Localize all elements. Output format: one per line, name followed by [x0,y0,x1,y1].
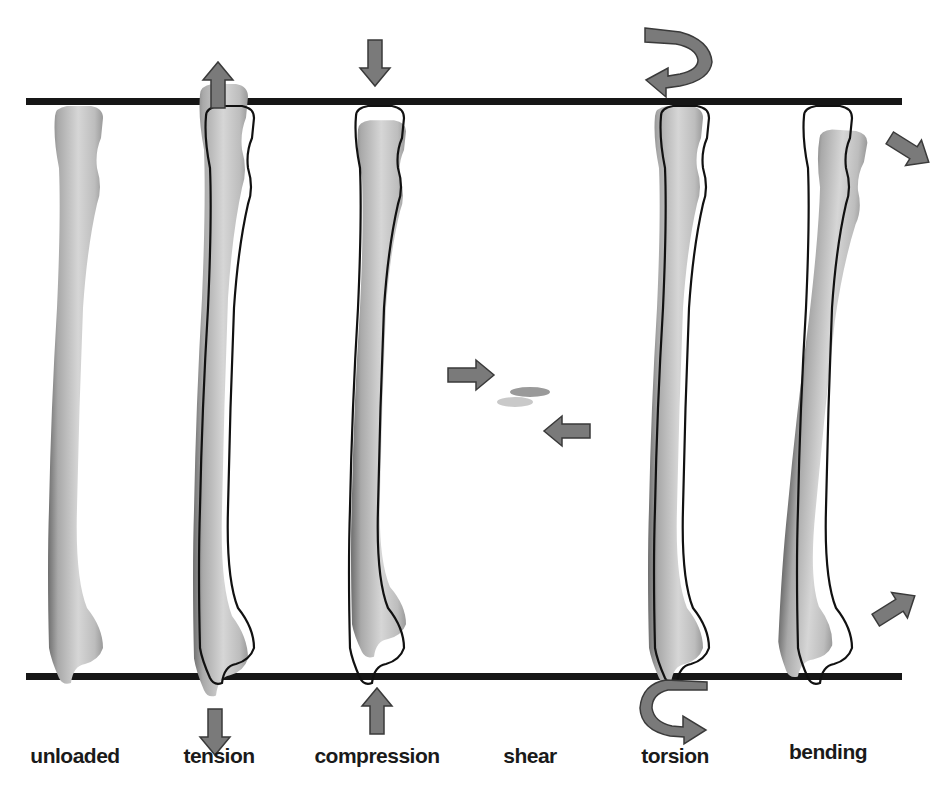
label-torsion: torsion [641,744,709,768]
bone-tension [193,84,248,696]
arrow-diagonal-up-right-icon [868,583,923,633]
label-bending: bending [789,740,867,764]
curved-arrow-bottom-icon [640,680,707,744]
bottom-reference-line [26,673,902,680]
bone-shear-upper [510,106,571,684]
bone-compression [351,120,406,657]
label-compression: compression [314,744,439,768]
bone-bending [775,128,868,679]
bone-unloaded [48,106,103,684]
curved-arrow-top-icon [645,28,712,97]
arrow-down-icon [360,40,390,86]
bone-torsion [648,106,703,684]
label-shear: shear [503,744,557,768]
arrow-up-icon [362,688,392,734]
arrow-left-icon [544,416,590,446]
label-tension: tension [183,744,254,768]
top-reference-line [26,98,902,105]
arrow-right-icon [448,360,494,390]
label-unloaded: unloaded [30,744,119,768]
arrow-diagonal-down-right-icon [882,125,937,175]
loading-modes-diagram [0,0,949,808]
